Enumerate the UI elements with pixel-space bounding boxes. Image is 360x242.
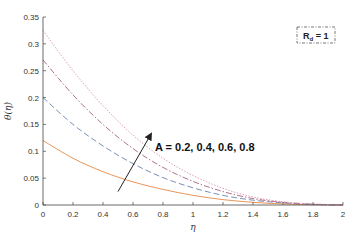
axes: [43, 17, 343, 205]
y-tick-label: 0.25: [23, 67, 39, 76]
x-tick-label: 1.6: [277, 210, 289, 219]
tick-labels: 00.20.40.60.811.21.41.61.8200.050.10.150…: [23, 13, 345, 219]
svg-text:Rd = 1: Rd = 1: [303, 31, 328, 42]
series-line: [43, 30, 343, 205]
legend-value: = 1: [313, 31, 328, 41]
y-tick-label: 0.05: [23, 174, 39, 183]
x-tick-label: 1.4: [247, 210, 259, 219]
x-tick-label: 1: [191, 210, 196, 219]
x-tick-label: 0.6: [127, 210, 139, 219]
y-tick-label: 0.15: [23, 120, 39, 129]
x-tick-label: 0.8: [157, 210, 169, 219]
y-tick-label: 0: [35, 201, 40, 210]
x-tick-label: 0.2: [67, 210, 79, 219]
x-tick-label: 0: [41, 210, 46, 219]
y-tick-label: 0.35: [23, 13, 39, 22]
x-tick-label: 1.2: [217, 210, 229, 219]
y-tick-label: 0.2: [28, 94, 40, 103]
chart: 00.20.40.60.811.21.41.61.8200.050.10.150…: [0, 0, 360, 242]
parameter-annotation: A = 0.2, 0.4, 0.6, 0.8: [155, 141, 255, 153]
data-curves: [43, 30, 343, 205]
annotation-arrow: [118, 134, 151, 191]
y-tick-label: 0.3: [28, 40, 40, 49]
legend-box: Rd = 1: [297, 27, 335, 43]
x-tick-label: 0.4: [97, 210, 109, 219]
y-tick-label: 0.1: [28, 147, 40, 156]
y-axis-label: θ(η): [3, 102, 13, 120]
x-axis-label: η: [190, 222, 196, 232]
series-line: [43, 60, 343, 205]
x-tick-label: 2: [341, 210, 346, 219]
x-tick-label: 1.8: [307, 210, 319, 219]
